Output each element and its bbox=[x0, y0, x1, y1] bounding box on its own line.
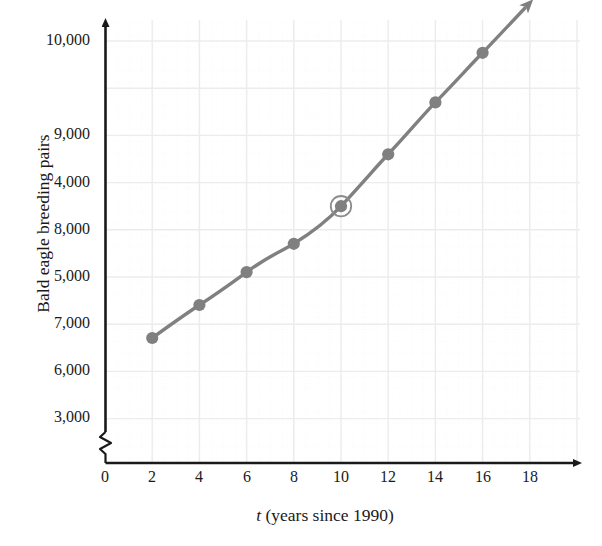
x-tick-label: 10 bbox=[321, 468, 361, 486]
data-point bbox=[241, 266, 253, 278]
x-axis-title-rest: (years since 1990) bbox=[261, 505, 394, 525]
x-tick-label: 18 bbox=[510, 468, 550, 486]
data-point bbox=[429, 96, 441, 108]
x-tick-label: 12 bbox=[368, 468, 408, 486]
x-tick-label: 4 bbox=[179, 468, 219, 486]
chart-plot-area bbox=[0, 0, 602, 546]
x-tick-label: 14 bbox=[415, 468, 455, 486]
x-tick-label: 8 bbox=[274, 468, 314, 486]
x-tick-label: 6 bbox=[227, 468, 267, 486]
data-point bbox=[146, 332, 158, 344]
data-point bbox=[477, 47, 489, 59]
chart-figure: 10,000 9,000 8,000 7,000 6,000 5,000 4,0… bbox=[0, 0, 602, 546]
y-tick-label: 3,000 bbox=[16, 408, 90, 426]
data-point bbox=[382, 148, 394, 160]
data-point-highlighted bbox=[335, 200, 347, 212]
x-tick-label: 0 bbox=[85, 468, 125, 486]
x-tick-label: 2 bbox=[132, 468, 172, 486]
data-point bbox=[193, 299, 205, 311]
x-tick-label: 16 bbox=[463, 468, 503, 486]
y-tick-label: 10,000 bbox=[16, 31, 90, 49]
x-axis-title: t (years since 1990) bbox=[105, 505, 545, 526]
grid-minor bbox=[105, 20, 580, 463]
y-axis-title: Bald eagle breeding pairs bbox=[33, 74, 54, 374]
data-point bbox=[288, 238, 300, 250]
